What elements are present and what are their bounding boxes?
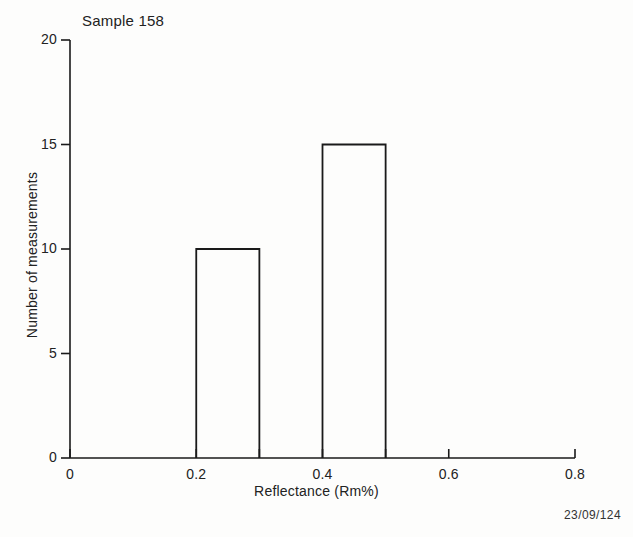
y-tick-label: 15 [21, 136, 57, 152]
histogram-bars-group [196, 145, 385, 459]
corner-stamp: 23/09/124 [564, 508, 621, 522]
chart-title: Sample 158 [82, 12, 164, 29]
x-axis-title: Reflectance (Rm%) [0, 483, 633, 499]
y-tick-label: 10 [21, 240, 57, 256]
y-tick-label: 0 [21, 449, 57, 465]
histogram-bar [323, 145, 386, 459]
chart-plot-area [0, 0, 633, 537]
x-tick-label: 0 [48, 466, 92, 482]
figure-canvas: Sample 158 Number of measurements Reflec… [0, 0, 633, 537]
histogram-bar [196, 249, 259, 458]
x-tick-label: 0.4 [301, 466, 345, 482]
y-tick-label: 20 [21, 31, 57, 47]
x-tick-label: 0.8 [553, 466, 597, 482]
x-tick-label: 0.6 [427, 466, 471, 482]
x-tick-label: 0.2 [174, 466, 218, 482]
y-tick-label: 5 [21, 345, 57, 361]
axis-ticks-group [61, 40, 575, 458]
